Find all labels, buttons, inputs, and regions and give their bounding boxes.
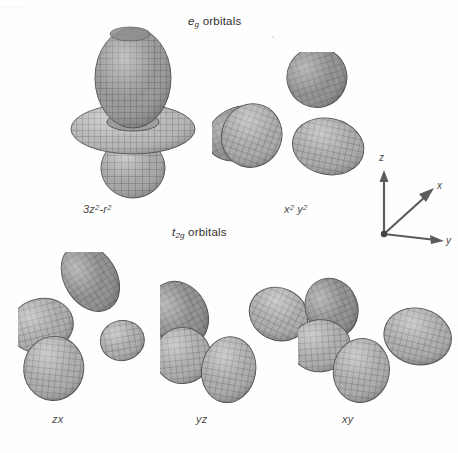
orbital-x2-y2 [212,52,372,200]
lobe-upper [95,27,171,128]
axis-label-x: x [437,180,442,191]
axis-x-line [384,196,426,234]
caption-3z2-r2: 3z2-r2 [83,203,112,215]
axis-y-arrowhead [430,235,444,244]
axis-y-line [384,234,436,240]
orbital-3z2-r2 [58,22,208,202]
lobe-right [378,301,453,372]
axis-z-arrowhead [380,170,389,182]
axis-triad [370,158,452,244]
caption-xy-text: xy [342,413,353,425]
caption-x2-y2-text: x2 y2 [284,203,307,215]
orbital-xy [298,266,453,411]
group-header-t2g-text: orbitals [185,226,227,238]
caption-x2-y2: x2 y2 [284,203,307,215]
axis-label-y: y [446,235,451,246]
lobe-mid-right [97,317,147,364]
lobe-back-right [279,52,355,115]
orbital-yz [160,252,312,410]
caption-yz-text: yz [196,413,207,425]
caption-yz: yz [196,413,207,425]
scan-speck [272,36,274,38]
caption-zx: zx [52,413,63,425]
orbital-zx [18,252,170,410]
lobe-front-right [287,112,369,182]
axis-label-z: z [379,152,384,163]
caption-xy: xy [342,413,353,425]
caption-zx-text: zx [52,413,63,425]
caption-3z2-r2-text: 3z2-r2 [83,203,112,215]
top-cut-text-fragment: . . .. . . [0,1,458,10]
orbital-figure: . . .. . . eg orbitals [0,0,458,453]
group-header-t2g: t2g orbitals [172,226,227,240]
axis-origin-dot [381,231,387,237]
lobe-front-left [213,95,291,176]
group-header-t2g-subscript: 2g [175,231,184,240]
